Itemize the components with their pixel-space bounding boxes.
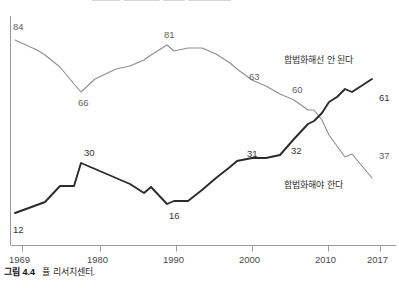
data-label-gray-2000: 63 xyxy=(249,72,260,82)
series-annotation-favor: 합법화해야 한다 xyxy=(284,181,343,190)
data-label-gray-2017: 37 xyxy=(379,151,390,161)
data-label-gray-2010: 60 xyxy=(292,85,303,95)
series-line-favor xyxy=(15,79,372,213)
data-label-black-2003: 32 xyxy=(291,146,302,156)
figure-caption-number: 그림 4.4 xyxy=(4,267,35,277)
data-label-black-1978: 30 xyxy=(84,148,95,158)
data-label-gray-1978: 66 xyxy=(78,98,89,108)
x-axis-ticks xyxy=(23,246,381,252)
x-tick-label-1990: 1990 xyxy=(163,255,184,265)
data-label-black-2000: 31 xyxy=(247,149,258,159)
figure-caption: 그림 4.4퓰 리서치센터. xyxy=(4,268,95,277)
x-tick-label-2010: 2010 xyxy=(315,255,336,265)
data-label-black-2017: 61 xyxy=(379,93,390,103)
data-label-gray-1990: 81 xyxy=(164,30,175,40)
data-label-black-1990: 16 xyxy=(169,211,180,221)
series-annotation-oppose: 합법화해선 안 된다 xyxy=(284,56,353,65)
figure-caption-source: 퓰 리서치센터. xyxy=(42,267,95,277)
data-label-gray-1969: 84 xyxy=(13,22,24,32)
x-tick-label-1969: 1969 xyxy=(9,255,30,265)
chart-svg xyxy=(0,0,399,288)
x-tick-label-1980: 1980 xyxy=(87,255,108,265)
chart-plot-area: 84 66 81 63 60 37 12 30 16 31 32 61 합법화해… xyxy=(0,0,399,288)
figure-root: □□□□ □□□□□ □□□ □□□□□□ 84 66 81 xyxy=(0,0,399,288)
x-tick-label-2000: 2000 xyxy=(239,255,260,265)
x-tick-label-2017: 2017 xyxy=(367,255,388,265)
data-label-black-1969: 12 xyxy=(13,225,24,235)
